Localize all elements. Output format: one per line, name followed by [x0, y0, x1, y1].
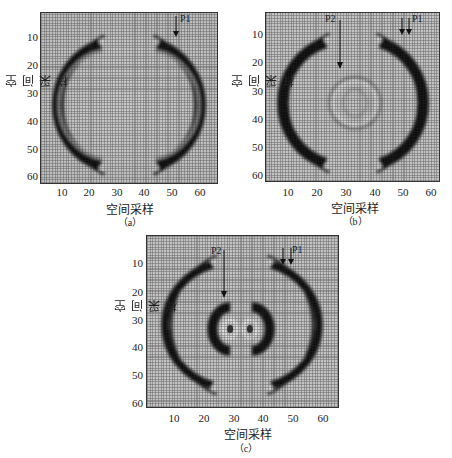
y-axis-label: 空间采样 [112, 300, 180, 312]
y-tick: 20 [247, 57, 263, 68]
x-tick: 50 [162, 187, 182, 198]
y-tick: 10 [127, 258, 143, 269]
y-tick: 60 [22, 171, 38, 182]
y-tick: 40 [127, 342, 143, 353]
arrow-icon [172, 16, 184, 38]
x-tick: 10 [164, 413, 184, 424]
annotation-p1: P1 [412, 14, 423, 24]
annotation-p2: P2 [325, 14, 336, 24]
x-tick: 20 [79, 187, 99, 198]
caption-c: （c） [226, 440, 266, 455]
y-axis-label: 空间采样 [3, 75, 71, 87]
wavefront-image-c [147, 236, 338, 407]
x-tick: 40 [134, 187, 154, 198]
y-axis-label: 空间采样 [229, 75, 297, 87]
x-tick: 50 [393, 187, 413, 198]
y-tick: 20 [22, 60, 38, 71]
y-tick: 20 [127, 287, 143, 298]
caption-a: （a） [110, 214, 150, 229]
y-tick: 10 [22, 32, 38, 43]
y-tick: 30 [247, 86, 263, 97]
caption-b: （b） [335, 213, 375, 228]
wavefield-plot-c [146, 235, 339, 408]
y-tick: 10 [247, 29, 263, 40]
x-tick: 30 [107, 187, 127, 198]
x-tick: 60 [313, 413, 333, 424]
x-tick: 40 [365, 187, 385, 198]
x-tick: 10 [278, 187, 298, 198]
y-tick: 50 [22, 144, 38, 155]
x-tick: 30 [336, 187, 356, 198]
x-tick: 10 [52, 187, 72, 198]
y-tick: 60 [247, 170, 263, 181]
y-tick: 30 [22, 88, 38, 99]
wavefront-image-a [41, 13, 217, 183]
y-tick: 50 [127, 370, 143, 381]
x-tick: 60 [421, 187, 441, 198]
x-tick: 30 [224, 413, 244, 424]
x-tick: 20 [194, 413, 214, 424]
y-tick: 30 [127, 315, 143, 326]
y-tick: 60 [127, 398, 143, 409]
arrow-icon [399, 18, 413, 36]
x-tick: 40 [253, 413, 273, 424]
y-tick: 40 [247, 114, 263, 125]
x-tick: 50 [283, 413, 303, 424]
wavefield-plot-a [40, 12, 218, 184]
x-tick: 60 [190, 187, 210, 198]
wavefront-image-b [266, 13, 439, 181]
y-tick: 40 [22, 116, 38, 127]
wavefield-plot-b [265, 12, 440, 182]
x-tick: 20 [307, 187, 327, 198]
arrow-icon [280, 248, 294, 266]
y-tick: 50 [247, 142, 263, 153]
arrow-icon [220, 250, 228, 300]
arrow-icon [336, 20, 344, 70]
